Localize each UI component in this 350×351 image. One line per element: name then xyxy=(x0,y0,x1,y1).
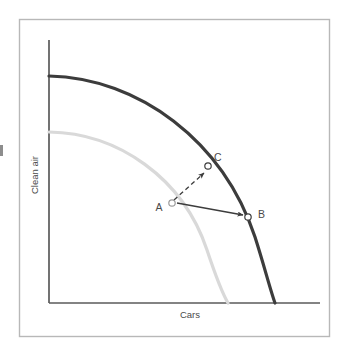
point-label-b: B xyxy=(258,208,265,220)
point-label-a: A xyxy=(155,201,162,213)
point-marker-b[interactable] xyxy=(245,214,251,220)
outer-production-possibility-frontier xyxy=(49,76,275,303)
page-edge-artifact xyxy=(0,145,3,156)
inner-production-possibility-frontier xyxy=(49,132,228,303)
figure-container: A B C Clean air Cars xyxy=(0,0,350,351)
figure-frame xyxy=(20,20,330,337)
point-label-c: C xyxy=(214,151,222,163)
point-marker-a[interactable] xyxy=(169,200,175,206)
ppf-chart-svg: A B C Clean air Cars xyxy=(0,0,350,351)
point-marker-c[interactable] xyxy=(205,163,211,169)
x-axis-label: Cars xyxy=(180,309,200,320)
y-axis-label: Clean air xyxy=(29,156,40,194)
